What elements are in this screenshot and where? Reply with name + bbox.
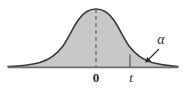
alpha-leader-arrow bbox=[146, 49, 159, 62]
center-label: 0 bbox=[88, 71, 104, 84]
tail-area-label: α bbox=[152, 33, 170, 47]
critical-value-label: t bbox=[123, 71, 139, 84]
normal-distribution-figure: 0 t α bbox=[0, 0, 185, 97]
